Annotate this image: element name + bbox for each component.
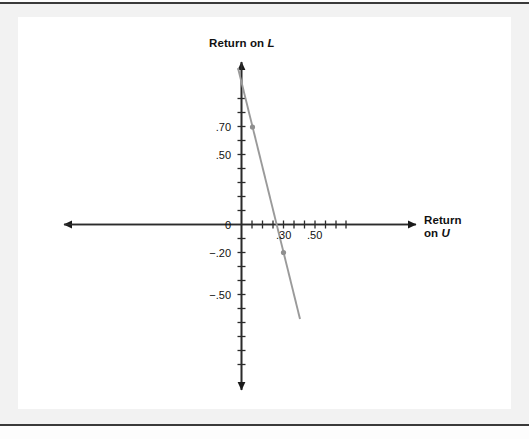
data-line (238, 68, 300, 319)
figure-screenshot: Return on L Returnon U .70 .50 −.20 −.50… (0, 0, 529, 439)
x-axis-title-line2: on (424, 227, 442, 239)
data-point-marker (281, 250, 286, 255)
x-axis-title-variable: U (442, 227, 450, 239)
x-axis-title-line1: Return (424, 214, 462, 226)
y-tick-label-070: .70 (199, 121, 231, 133)
y-tick-label-neg020: −.20 (193, 247, 231, 259)
y-tick-label-050: .50 (199, 149, 231, 161)
data-point-marker (250, 124, 255, 129)
y-axis-title: Return on L (209, 37, 275, 50)
x-tick-label-050: .50 (307, 229, 322, 241)
y-axis-title-variable: L (268, 37, 275, 49)
y-axis-title-text: Return on (209, 37, 268, 49)
x-tick-label-030: .30 (276, 229, 291, 241)
x-axis-title: Returnon U (424, 214, 462, 240)
y-tick-label-neg050: −.50 (193, 289, 231, 301)
origin-label: 0 (199, 219, 231, 231)
